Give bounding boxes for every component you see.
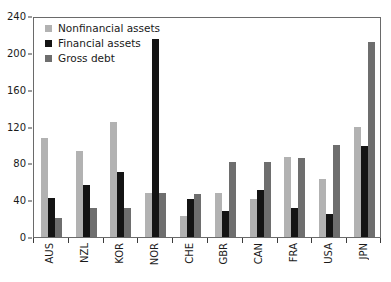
- bar-group: [173, 18, 208, 237]
- legend-swatch-icon: [45, 55, 52, 62]
- x-tick-label: NOR: [150, 243, 160, 265]
- x-axis-labels: AUSNZLKORNORCHEGBRCANFRAUSAJPN: [33, 243, 381, 281]
- bar-nonfinancial-assets-aus: [41, 138, 48, 237]
- y-tick-label: 80: [13, 159, 26, 169]
- x-tick-label: GBR: [219, 243, 229, 265]
- bar-gross-debt-che: [194, 194, 201, 237]
- bar-group: [243, 18, 278, 237]
- bar-group: [347, 18, 382, 237]
- bar-gross-debt-can: [264, 162, 271, 237]
- bar-gross-debt-fra: [298, 158, 305, 237]
- legend-item: Nonfinancial assets: [45, 22, 160, 34]
- x-tick-label: CHE: [185, 243, 195, 264]
- bar-gross-debt-usa: [333, 145, 340, 237]
- legend-item: Financial assets: [45, 37, 160, 49]
- y-tick-mark: [28, 164, 32, 165]
- y-tick-mark: [28, 90, 32, 91]
- x-tick-label: FRA: [289, 243, 299, 262]
- y-tick-mark: [28, 201, 32, 202]
- bar-financial-assets-jpn: [361, 146, 368, 237]
- legend-label: Financial assets: [58, 38, 141, 49]
- bar-financial-assets-nzl: [83, 185, 90, 237]
- y-tick-mark: [28, 127, 32, 128]
- y-axis: 04080120160200240: [0, 10, 32, 245]
- bar-financial-assets-nor: [152, 39, 159, 237]
- bar-financial-assets-can: [257, 190, 264, 237]
- y-tick-mark: [28, 17, 32, 18]
- bar-nonfinancial-assets-nzl: [76, 151, 83, 237]
- legend-swatch-icon: [45, 25, 52, 32]
- bar-gross-debt-kor: [124, 208, 131, 237]
- bar-gross-debt-aus: [55, 218, 62, 237]
- legend-label: Gross debt: [58, 53, 115, 64]
- bar-nonfinancial-assets-nor: [145, 193, 152, 237]
- bar-nonfinancial-assets-gbr: [215, 193, 222, 237]
- y-tick-label: 200: [7, 49, 26, 59]
- bar-financial-assets-che: [187, 199, 194, 237]
- bar-nonfinancial-assets-kor: [110, 122, 117, 237]
- bar-nonfinancial-assets-usa: [319, 179, 326, 237]
- y-tick-label: 160: [7, 86, 26, 96]
- bar-financial-assets-kor: [117, 172, 124, 237]
- bar-group: [278, 18, 313, 237]
- bar-chart: 04080120160200240 AUSNZLKORNORCHEGBRCANF…: [0, 0, 391, 282]
- x-tick-label: NZL: [80, 243, 90, 263]
- x-tick-label: JPN: [359, 243, 369, 259]
- bar-nonfinancial-assets-can: [250, 199, 257, 237]
- bar-financial-assets-usa: [326, 214, 333, 237]
- legend-item: Gross debt: [45, 52, 160, 64]
- y-tick-mark: [28, 53, 32, 54]
- y-tick-label: 240: [7, 12, 26, 22]
- bar-group: [312, 18, 347, 237]
- chart-legend: Nonfinancial assetsFinancial assetsGross…: [45, 22, 160, 64]
- bar-nonfinancial-assets-jpn: [354, 127, 361, 237]
- legend-label: Nonfinancial assets: [58, 23, 160, 34]
- y-tick-mark: [28, 238, 32, 239]
- bar-gross-debt-gbr: [229, 162, 236, 237]
- bar-nonfinancial-assets-fra: [284, 157, 291, 237]
- bar-nonfinancial-assets-che: [180, 216, 187, 237]
- y-tick-label: 120: [7, 123, 26, 133]
- x-tick-label: CAN: [254, 243, 264, 264]
- bar-group: [208, 18, 243, 237]
- bar-financial-assets-fra: [291, 208, 298, 237]
- x-tick-label: KOR: [115, 243, 125, 264]
- bar-gross-debt-jpn: [368, 42, 375, 237]
- x-tick-label: AUS: [45, 243, 55, 264]
- bar-financial-assets-gbr: [222, 211, 229, 237]
- bar-financial-assets-aus: [48, 198, 55, 237]
- x-tick-label: USA: [324, 243, 334, 264]
- y-tick-label: 0: [20, 233, 26, 243]
- y-tick-label: 40: [13, 196, 26, 206]
- bar-gross-debt-nor: [159, 193, 166, 237]
- bar-gross-debt-nzl: [90, 208, 97, 237]
- legend-swatch-icon: [45, 40, 52, 47]
